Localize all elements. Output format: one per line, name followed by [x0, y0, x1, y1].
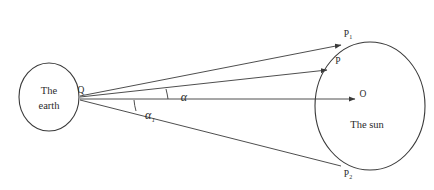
earth-label-line1: The [41, 85, 58, 96]
sun-label: The sun [350, 119, 384, 130]
point-label-o: O [360, 89, 367, 99]
ray-q-to-p2 [80, 100, 341, 166]
point-label-p: P [335, 56, 340, 66]
angle-arc-alpha1 [134, 100, 136, 111]
angle-arc-alpha [166, 89, 168, 99]
point-label-q: Q [78, 85, 85, 95]
earth-sun-geometry-figure: The earth The sun α α1 Q P1 P O P2 [0, 0, 434, 190]
earth-body-outline [19, 63, 79, 131]
ray-q-to-p1 [80, 45, 341, 96]
diagram-canvas: The earth The sun α α1 Q P1 P O P2 [0, 0, 434, 190]
angle-label-alpha: α [181, 90, 188, 104]
angle-label-alpha1: α1 [145, 108, 155, 123]
point-label-p2: P2 [344, 169, 352, 180]
earth-label-line2: earth [39, 100, 61, 111]
ray-q-to-p [80, 70, 327, 97]
point-label-p1: P1 [344, 29, 352, 40]
sun-body-outline [315, 42, 425, 170]
